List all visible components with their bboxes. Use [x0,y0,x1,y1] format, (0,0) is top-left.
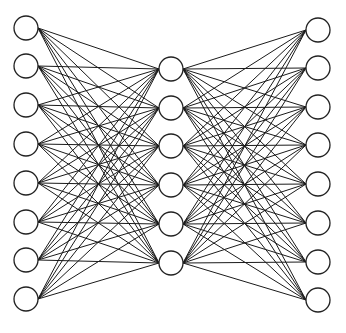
output-node-5 [306,172,330,196]
input-node-3 [14,93,38,117]
hidden-node-4 [159,173,183,197]
connection-edge [183,30,306,224]
hidden-node-6 [159,251,183,275]
connection-edge [38,69,159,183]
input-node-7 [14,248,38,272]
output-node-1 [306,18,330,42]
connection-edge [183,145,306,263]
input-node-4 [14,132,38,156]
connection-edge [38,263,159,299]
neural-network-diagram [0,0,346,333]
input-node-8 [14,287,38,311]
connection-edge [38,69,159,144]
output-node-4 [306,133,330,157]
hidden-node-2 [159,96,183,120]
connection-edge [38,69,159,105]
connection-edge [38,185,159,299]
connection-edge [38,224,159,299]
connection-edge [183,262,306,263]
hidden-node-1 [159,57,183,81]
connection-edge [38,108,159,299]
neurons [14,16,330,312]
connection-edge [183,263,306,300]
connection-edge [183,30,306,69]
output-node-7 [306,250,330,274]
input-node-2 [14,54,38,78]
hidden-node-5 [159,212,183,236]
connection-edge [183,30,306,146]
output-node-3 [306,95,330,119]
output-node-6 [306,211,330,235]
connection-edge [183,30,306,263]
output-node-8 [306,288,330,312]
hidden-node-3 [159,134,183,158]
output-node-2 [306,56,330,80]
input-node-1 [14,16,38,40]
input-node-6 [14,210,38,234]
input-node-5 [14,171,38,195]
connection-edge [38,69,159,260]
connection-edge [38,69,159,299]
